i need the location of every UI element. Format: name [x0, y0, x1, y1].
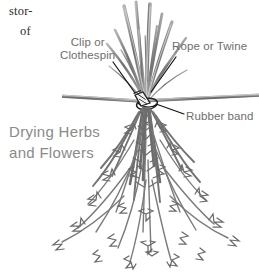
callout-rubber-band: Rubber band	[186, 110, 254, 123]
callout-clip-or-clothespin: Clip or Clothespin	[60, 36, 115, 62]
figure-caption: Drying Herbs and Flowers	[9, 121, 100, 163]
illustration-figure: stor- of	[0, 0, 259, 280]
rope-or-twine	[62, 94, 259, 102]
callout-rope-or-twine: Rope or Twine	[172, 40, 247, 53]
callout-clip-line2: Clothespin	[60, 49, 115, 62]
leader-rubber-band	[156, 104, 184, 114]
figure-caption-line2: and Flowers	[9, 142, 100, 163]
figure-caption-line1: Drying Herbs	[9, 121, 100, 142]
callout-clip-line1: Clip or	[60, 36, 115, 49]
